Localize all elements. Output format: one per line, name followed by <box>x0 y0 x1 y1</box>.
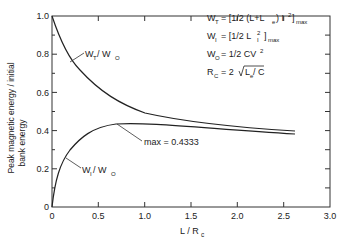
svg-text:max: max <box>296 19 307 25</box>
svg-text:O: O <box>215 55 220 61</box>
svg-text:2: 2 <box>260 48 264 54</box>
x-tick-labels: 0 0.5 1.0 1.5 2.0 2.5 3.0 <box>49 211 336 221</box>
svg-text:= 1/2 CV: = 1/2 CV <box>221 49 256 59</box>
svg-text:R: R <box>207 67 214 77</box>
svg-text:0.5: 0.5 <box>92 211 105 221</box>
svg-text:1.0: 1.0 <box>138 211 151 221</box>
svg-text:2: 2 <box>257 30 261 36</box>
svg-text:O: O <box>115 55 120 61</box>
svg-text:]: ] <box>264 31 267 41</box>
svg-text:/ W: / W <box>97 49 111 59</box>
svg-text:0.4: 0.4 <box>36 126 49 136</box>
svg-text:c: c <box>201 231 205 238</box>
max-leader <box>117 124 142 141</box>
curve-label-wt: W T / W O <box>85 49 120 61</box>
wt-leader <box>70 53 84 62</box>
plot-frame <box>52 16 330 207</box>
svg-text:= 2: = 2 <box>221 67 234 77</box>
svg-text:I: I <box>215 37 217 43</box>
svg-text:2.0: 2.0 <box>231 211 244 221</box>
svg-text:C: C <box>214 73 219 79</box>
svg-text:/ C: / C <box>253 67 265 77</box>
svg-text:3.0: 3.0 <box>324 211 337 221</box>
svg-text:I: I <box>257 37 259 43</box>
svg-text:) I: ) I <box>276 13 284 23</box>
svg-text:1.5: 1.5 <box>185 211 198 221</box>
svg-text:= [1/2 (L+L: = [1/2 (L+L <box>221 13 265 23</box>
wi-leader <box>66 158 81 168</box>
x-ticks <box>98 16 283 207</box>
svg-text:= [1/2 L: = [1/2 L <box>221 31 251 41</box>
chart: 0 0.5 1.0 1.5 2.0 2.5 3.0 0 0.2 0.4 0.6 … <box>0 0 348 249</box>
y-axis-label-line2: bank energy <box>17 119 27 167</box>
curve-label-wi: W I / W O <box>82 165 116 177</box>
equations: W T = [1/2 (L+L e ) I 2 ] max W I = [1/2… <box>207 12 307 79</box>
svg-text:0: 0 <box>49 211 54 221</box>
svg-text:0.8: 0.8 <box>36 49 49 59</box>
x-axis-label: L / R c <box>180 226 205 238</box>
svg-text:0.2: 0.2 <box>36 164 49 174</box>
svg-text:2.5: 2.5 <box>277 211 290 221</box>
svg-text:0: 0 <box>44 202 49 212</box>
svg-text:/ W: / W <box>93 165 107 175</box>
svg-text:0.6: 0.6 <box>36 88 49 98</box>
max-annotation: max = 0.4333 <box>144 137 199 147</box>
svg-text:I: I <box>90 171 92 177</box>
svg-text:max: max <box>268 37 279 43</box>
svg-text:T: T <box>215 19 219 25</box>
y-tick-labels: 0 0.2 0.4 0.6 0.8 1.0 <box>36 11 49 212</box>
svg-text:]: ] <box>292 13 295 23</box>
svg-text:1.0: 1.0 <box>36 11 49 21</box>
svg-text:L / R: L / R <box>180 226 199 236</box>
svg-text:O: O <box>111 171 116 177</box>
y-axis-label-line1: Peak magnetic energy / initial <box>6 62 16 173</box>
